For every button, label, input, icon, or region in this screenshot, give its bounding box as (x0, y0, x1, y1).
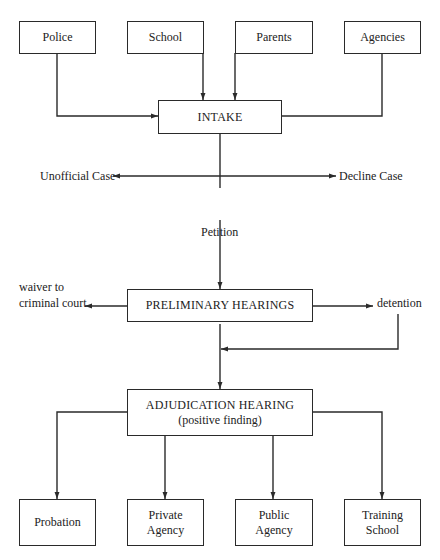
node-preliminary-hearings: PRELIMINARY HEARINGS (127, 289, 313, 322)
node-school: School (127, 21, 204, 54)
node-intake-label: INTAKE (198, 110, 243, 125)
node-public-agency-line1: Public (259, 508, 290, 523)
node-police: Police (19, 21, 96, 54)
node-police-label: Police (43, 30, 73, 45)
node-intake: INTAKE (158, 100, 282, 134)
node-public-agency-line2: Agency (255, 523, 292, 538)
node-parents-label: Parents (256, 30, 291, 45)
node-private-agency-line1: Private (149, 508, 183, 523)
node-training-school-line1: Training (362, 508, 403, 523)
node-parents: Parents (235, 21, 313, 54)
node-private-agency-line2: Agency (147, 523, 184, 538)
node-probation-line1: Probation (34, 515, 81, 530)
edge-adj-training (312, 412, 382, 499)
node-public-agency: Public Agency (235, 499, 313, 546)
node-preliminary-label: PRELIMINARY HEARINGS (146, 298, 295, 313)
edge-police-intake (57, 53, 158, 116)
node-training-school: Training School (344, 499, 421, 546)
label-petition: Petition (201, 225, 238, 239)
label-unofficial-case: Unofficial Case (40, 169, 115, 183)
node-school-label: School (149, 30, 182, 45)
node-adjudication-hearing: ADJUDICATION HEARING (positive finding) (127, 389, 313, 436)
label-waiver-line1: waiver to (19, 280, 64, 294)
label-waiver-line2: criminal court (19, 296, 87, 310)
edge-adj-probation (57, 412, 127, 499)
node-private-agency: Private Agency (127, 499, 204, 546)
node-agencies-label: Agencies (360, 30, 405, 45)
label-decline-case: Decline Case (339, 169, 403, 183)
node-agencies: Agencies (344, 21, 421, 54)
flowchart-canvas: Police School Parents Agencies INTAKE Un… (0, 0, 440, 560)
connectors (0, 0, 440, 560)
node-probation: Probation (19, 499, 96, 546)
node-adjudication-label: ADJUDICATION HEARING (146, 398, 294, 413)
node-training-school-line2: School (366, 523, 399, 538)
edge-agencies-intake (281, 53, 382, 116)
node-adjudication-sublabel: (positive finding) (178, 413, 262, 428)
label-detention: detention (377, 296, 422, 310)
